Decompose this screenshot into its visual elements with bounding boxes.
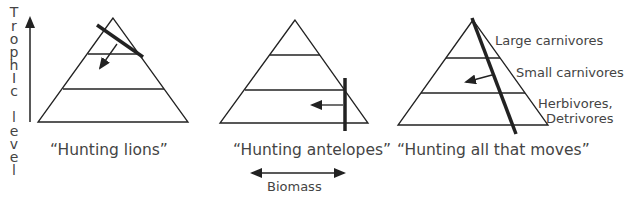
label-herbivores: Herbivores, [538, 96, 613, 111]
pyramid-hunting-lions [38, 18, 188, 122]
pyramid-hunting-antelopes [220, 20, 368, 131]
shift-arrow [100, 44, 117, 68]
shift-arrow [466, 75, 492, 82]
trophic-axis-arrow [25, 16, 35, 122]
label-small-carnivores: Small carnivores [516, 65, 624, 80]
label-detrivores: Detrivores [546, 111, 614, 126]
caption-hunting-all: “Hunting all that moves” [397, 141, 590, 159]
axis-letter: T [8, 5, 20, 19]
caption-hunting-antelopes: “Hunting antelopes” [233, 141, 391, 159]
label-large-carnivores: Large carnivores [495, 33, 603, 48]
label-biomass: Biomass [267, 179, 322, 194]
axis-letter: l [8, 110, 20, 124]
axis-letter: l [8, 163, 20, 177]
caption-hunting-lions: “Hunting lions” [50, 141, 168, 159]
axis-letter: c [8, 84, 20, 98]
harvest-line [97, 25, 143, 57]
biomass-arrow [250, 168, 346, 178]
diagram-canvas [0, 0, 628, 197]
